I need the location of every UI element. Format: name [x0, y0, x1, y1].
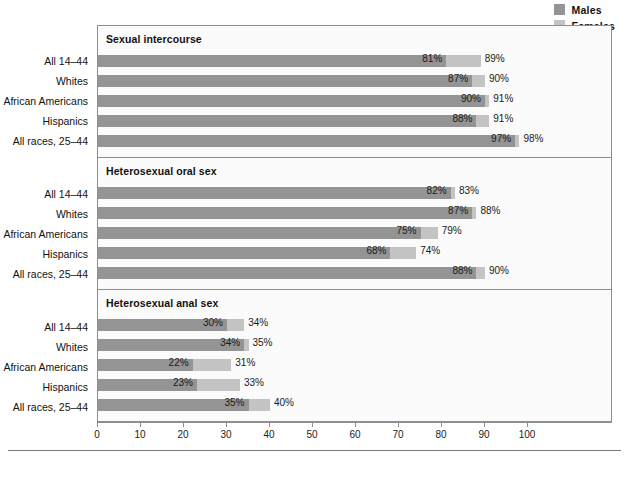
bar-row: 87%88%	[98, 203, 611, 223]
axis-tick	[97, 422, 98, 427]
bar-track	[98, 247, 528, 259]
bar-value-female: 33%	[240, 377, 264, 389]
bar-row: 88%90%	[98, 263, 611, 283]
bar-value-female: 89%	[481, 53, 505, 65]
axis-tick-label: 100	[519, 429, 536, 440]
bar-row: 81%89%	[98, 51, 611, 71]
bar-track	[98, 319, 528, 331]
bar-row: 68%74%	[98, 243, 611, 263]
bar-male	[98, 95, 485, 107]
panel-rows: 30%34%34%35%22%31%23%33%35%40%	[98, 315, 611, 421]
bar-value-male: 97%	[491, 133, 515, 145]
bar-male	[98, 115, 476, 127]
bar-value-female: 40%	[270, 397, 294, 409]
category-label: All 14–44	[44, 55, 88, 67]
category-label: All 14–44	[44, 321, 88, 333]
bar-value-male: 34%	[220, 337, 244, 349]
chart-panels: Sexual intercourse81%89%87%90%90%91%88%9…	[97, 25, 612, 422]
bar-track	[98, 227, 528, 239]
bar-row: 90%91%	[98, 91, 611, 111]
axis-tick	[183, 422, 184, 427]
panel-rows: 81%89%87%90%90%91%88%91%97%98%	[98, 51, 611, 157]
bar-male	[98, 135, 515, 147]
bar-track	[98, 135, 528, 147]
bar-value-male: 68%	[366, 245, 390, 257]
bar-value-female: 35%	[249, 337, 273, 349]
bar-row: 75%79%	[98, 223, 611, 243]
category-label: Hispanics	[42, 115, 88, 127]
legend-label-males: Males	[572, 4, 602, 16]
axis-tick-label: 80	[435, 429, 446, 440]
axis-tick-label: 70	[392, 429, 403, 440]
bar-track	[98, 359, 528, 371]
category-label: All races, 25–44	[13, 268, 88, 280]
bar-track	[98, 339, 528, 351]
bar-value-female: 90%	[485, 73, 509, 85]
axis-tick-label: 10	[134, 429, 145, 440]
axis-tick	[269, 422, 270, 427]
panel-title: Heterosexual anal sex	[98, 290, 611, 315]
axis-tick	[140, 422, 141, 427]
bar-row: 22%31%	[98, 355, 611, 375]
footer-divider	[8, 450, 621, 451]
bar-value-male: 90%	[461, 93, 485, 105]
chart-figure: Males Females All 14–44WhitesAfrican Ame…	[0, 0, 629, 480]
bar-value-female: 83%	[455, 185, 479, 197]
category-label: Whites	[56, 208, 88, 220]
axis-tick-label: 30	[220, 429, 231, 440]
bar-value-female: 79%	[438, 225, 462, 237]
panel-rows: 82%83%87%88%75%79%68%74%88%90%	[98, 183, 611, 289]
axis-tick	[312, 422, 313, 427]
bar-track	[98, 55, 528, 67]
category-label: African Americans	[3, 95, 88, 107]
chart-panel: Heterosexual anal sex30%34%34%35%22%31%2…	[97, 289, 612, 422]
bar-value-male: 87%	[448, 73, 472, 85]
axis-tick-label: 20	[177, 429, 188, 440]
category-label: Whites	[56, 341, 88, 353]
axis-tick-label: 0	[94, 429, 100, 440]
bar-value-female: 90%	[485, 265, 509, 277]
bar-value-male: 88%	[452, 113, 476, 125]
axis-tick	[441, 422, 442, 427]
bar-value-female: 88%	[476, 205, 500, 217]
bar-male	[98, 75, 472, 87]
bar-row: 23%33%	[98, 375, 611, 395]
bar-value-male: 23%	[173, 377, 197, 389]
bar-row: 35%40%	[98, 395, 611, 415]
axis-tick	[484, 422, 485, 427]
bar-male	[98, 247, 390, 259]
bar-male	[98, 227, 421, 239]
category-label: Whites	[56, 75, 88, 87]
category-label: African Americans	[3, 228, 88, 240]
bar-row: 30%34%	[98, 315, 611, 335]
bar-row: 87%90%	[98, 71, 611, 91]
axis-tick	[527, 422, 528, 427]
bar-row: 88%91%	[98, 111, 611, 131]
axis-tick-label: 50	[306, 429, 317, 440]
panel-title: Heterosexual oral sex	[98, 158, 611, 183]
axis-tick	[355, 422, 356, 427]
category-label: African Americans	[3, 361, 88, 373]
bar-male	[98, 267, 476, 279]
axis-tick-label: 60	[349, 429, 360, 440]
bar-value-male: 22%	[169, 357, 193, 369]
category-label: Hispanics	[42, 381, 88, 393]
bar-male	[98, 55, 446, 67]
bar-value-male: 75%	[396, 225, 420, 237]
bar-value-male: 87%	[448, 205, 472, 217]
bar-row: 82%83%	[98, 183, 611, 203]
category-label: All races, 25–44	[13, 401, 88, 413]
males-swatch-icon	[554, 4, 565, 15]
axis-tick	[226, 422, 227, 427]
axis-tick-label: 90	[478, 429, 489, 440]
bar-value-female: 98%	[519, 133, 543, 145]
bar-value-male: 35%	[224, 397, 248, 409]
category-label: All races, 25–44	[13, 135, 88, 147]
chart-panel: Heterosexual oral sex82%83%87%88%75%79%6…	[97, 157, 612, 289]
category-label: Hispanics	[42, 248, 88, 260]
chart-panel: Sexual intercourse81%89%87%90%90%91%88%9…	[97, 25, 612, 157]
bar-track	[98, 399, 528, 411]
bar-male	[98, 187, 451, 199]
bar-value-female: 91%	[489, 113, 513, 125]
bar-row: 97%98%	[98, 131, 611, 151]
